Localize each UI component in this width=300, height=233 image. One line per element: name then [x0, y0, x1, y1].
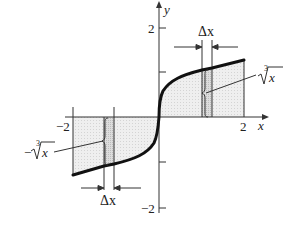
y-axis-label: y [162, 2, 170, 17]
cube-root-label-left: − 3 x [24, 139, 55, 160]
shaded-region-left [73, 117, 159, 175]
x-tick-label-neg2: −2 [56, 119, 70, 134]
delta-x-label-bottom: Δx [100, 193, 116, 208]
delta-x-label-top: Δx [198, 24, 214, 39]
x-axis-label: x [257, 118, 264, 133]
cube-root-label-right: 3 x [258, 64, 283, 85]
x-tick-label-2: 2 [240, 119, 247, 134]
svg-text:−: − [24, 145, 31, 160]
delta-arrows-bottom [81, 186, 141, 191]
svg-text:x: x [268, 70, 275, 85]
y-axis-arrow-icon [156, 1, 162, 8]
y-tick-label-2: 2 [148, 21, 155, 36]
delta-arrows-top [174, 45, 238, 50]
y-tick-label-neg2: −2 [141, 201, 155, 216]
svg-text:x: x [41, 145, 48, 160]
diagram-canvas: y x 2 −2 2 −2 Δx Δx 3 x − 3 x [0, 0, 300, 233]
